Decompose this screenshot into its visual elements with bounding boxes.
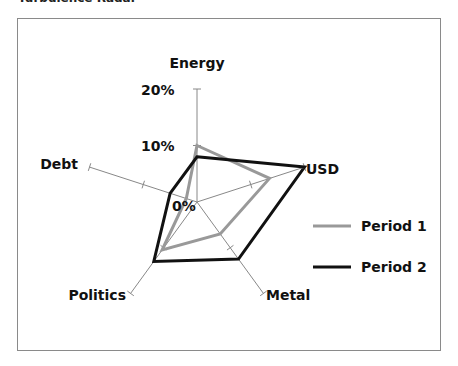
axis-label-metal: Metal (266, 287, 310, 303)
legend-label-period-1: Period 1 (361, 218, 427, 234)
axis-label-usd: USD (306, 161, 339, 177)
legend-label-period-2: Period 2 (361, 259, 427, 275)
axis-tick (227, 245, 233, 250)
axis-label-debt: Debt (40, 156, 78, 172)
axis-label-politics: Politics (68, 287, 126, 303)
axis-label-energy: Energy (169, 55, 224, 71)
tick-label-20: 20% (141, 82, 175, 98)
radar-axes (88, 89, 305, 296)
radar-chart: EnergyUSDMetalPoliticsDebt 0% 10% 20% Pe… (0, 0, 458, 366)
axis-tick (127, 291, 133, 296)
tick-label-10: 10% (141, 138, 175, 154)
tick-label-0: 0% (172, 198, 196, 214)
legend: Period 1 Period 2 (313, 218, 427, 275)
